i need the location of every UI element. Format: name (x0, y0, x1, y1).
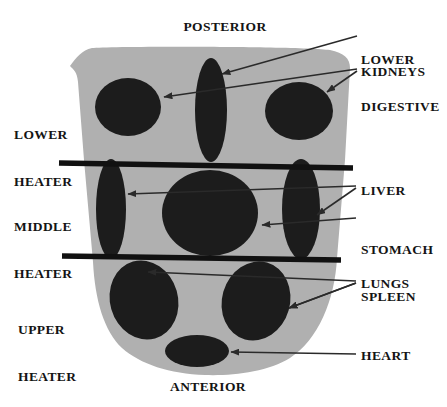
label-kidneys: KIDNEYS (361, 64, 425, 80)
label-liver: LIVER (361, 183, 406, 199)
liver-left-shape (96, 159, 126, 259)
label-lungs: LUNGS (361, 276, 410, 292)
label-anterior: ANTERIOR (162, 379, 254, 395)
liver-right-shape (282, 159, 320, 259)
label-stomach-spleen-line1: STOMACH (361, 242, 433, 258)
label-upper-heater-line1: UPPER (18, 322, 76, 338)
diagram-canvas: POSTERIOR ANTERIOR LOWER HEATER MIDDLE H… (0, 0, 447, 407)
label-upper-heater-line2: HEATER (18, 369, 76, 385)
label-lower-heater-line2: HEATER (14, 174, 72, 190)
label-lower-digestive: LOWER DIGESTIVE (361, 21, 440, 145)
label-middle-heater-line1: MIDDLE (14, 219, 72, 235)
heart-shape (165, 335, 229, 367)
kidney-left-shape (95, 78, 161, 136)
stomach-spleen-shape (162, 170, 258, 256)
label-lower-digestive-line2: DIGESTIVE (361, 99, 440, 115)
label-heart: HEART (361, 348, 411, 364)
label-posterior: POSTERIOR (178, 19, 272, 35)
label-upper-heater: UPPER HEATER (18, 291, 76, 407)
label-lower-heater-line1: LOWER (14, 127, 72, 143)
kidney-right-shape (265, 82, 333, 140)
label-middle-heater-line2: HEATER (14, 266, 72, 282)
label-stomach-spleen: STOMACH SPLEEN (361, 211, 433, 335)
